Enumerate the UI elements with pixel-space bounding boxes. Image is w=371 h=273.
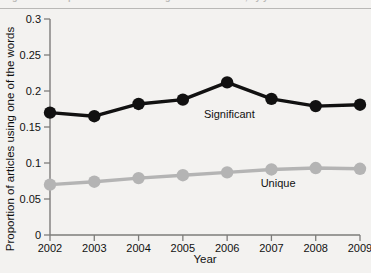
figure-caption: Figure 1 — Proportion of articles using … — [4, 0, 282, 2]
data-point-marker — [132, 172, 144, 184]
x-tick-label: 2004 — [126, 242, 150, 254]
data-point-marker — [177, 169, 189, 181]
y-axis-title: Proportion of articles using one of the … — [4, 27, 16, 252]
data-point-marker — [354, 163, 366, 175]
chart-canvas: Proportion of articles using one of the … — [0, 9, 371, 273]
data-point-marker — [44, 106, 56, 118]
y-tick-label: 0.05 — [20, 193, 41, 205]
y-tick-label: 0.15 — [20, 121, 41, 133]
series-label-significant: Significant — [204, 108, 255, 120]
series-label-unique: Unique — [261, 177, 296, 189]
y-tick-label: 0.1 — [26, 157, 41, 169]
data-point-marker — [44, 178, 56, 190]
data-point-marker — [354, 98, 366, 110]
data-point-marker — [132, 98, 144, 110]
y-tick-label: 0.2 — [26, 85, 41, 97]
data-point-marker — [310, 100, 322, 112]
data-point-marker — [221, 166, 233, 178]
cropped-caption-strip: Figure 1 — Proportion of articles using … — [0, 0, 371, 9]
x-axis-title: Year — [193, 253, 216, 265]
data-point-marker — [177, 93, 189, 105]
data-point-marker — [221, 76, 233, 88]
data-point-marker — [88, 176, 100, 188]
chart-background — [0, 9, 371, 273]
x-tick-label: 2006 — [215, 242, 239, 254]
x-tick-label: 2008 — [303, 242, 327, 254]
x-tick-label: 2007 — [259, 242, 283, 254]
x-tick-label: 2002 — [38, 242, 62, 254]
data-point-marker — [265, 163, 277, 175]
y-tick-label: 0.25 — [20, 49, 41, 61]
x-tick-label: 2009 — [348, 242, 371, 254]
data-point-marker — [310, 162, 322, 174]
x-tick-label: 2005 — [171, 242, 195, 254]
data-point-marker — [88, 110, 100, 122]
y-tick-label: 0 — [35, 229, 41, 241]
data-point-marker — [265, 93, 277, 105]
line-chart-figure: Proportion of articles using one of the … — [0, 9, 371, 273]
x-tick-label: 2003 — [82, 242, 106, 254]
y-tick-label: 0.3 — [26, 13, 41, 25]
